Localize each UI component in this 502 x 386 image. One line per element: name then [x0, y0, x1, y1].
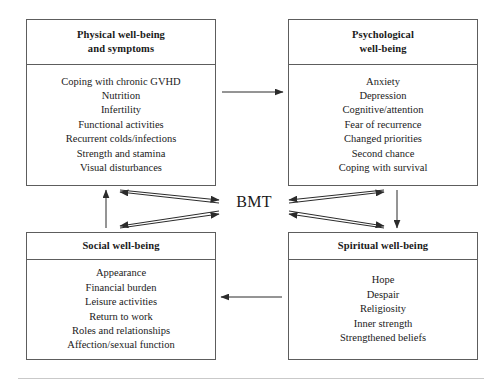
arrow-bmt-to-psychological: [289, 192, 384, 203]
list-item: Visual disturbances: [80, 161, 162, 175]
list-item: Nutrition: [102, 89, 141, 103]
box-psychological-wellbeing: Psychological well-being Anxiety Depress…: [288, 19, 478, 186]
list-item: Return to work: [89, 310, 153, 324]
arrow-psychological-to-bmt: [289, 190, 384, 200]
box-psychological-title-line1: Psychological: [352, 28, 414, 42]
list-item: Religiosity: [360, 302, 406, 316]
list-item: Infertility: [101, 103, 141, 117]
box-physical-items: Coping with chronic GVHD Nutrition Infer…: [27, 65, 215, 185]
list-item: Recurrent colds/infections: [66, 132, 177, 146]
list-item: Changed priorities: [344, 132, 422, 146]
list-item: Affection/sexual function: [67, 338, 174, 352]
box-social-title-line1: Social well-being: [82, 239, 159, 253]
list-item: Appearance: [96, 266, 146, 280]
list-item: Second chance: [352, 147, 415, 161]
list-item: Roles and relationships: [72, 324, 170, 338]
list-item: Fear of recurrence: [345, 118, 422, 132]
list-item: Depression: [359, 89, 406, 103]
list-item: Strength and stamina: [77, 147, 166, 161]
arrow-physical-to-bmt: [120, 190, 219, 200]
box-physical-header: Physical well-being and symptoms: [27, 20, 215, 65]
box-social-wellbeing: Social well-being Appearance Financial b…: [26, 232, 216, 360]
list-item: Strengthened beliefs: [340, 331, 426, 345]
bottom-divider-rule: [18, 378, 484, 379]
list-item: Coping with chronic GVHD: [61, 75, 180, 89]
box-physical-wellbeing: Physical well-being and symptoms Coping …: [26, 19, 216, 186]
arrow-bmt-to-physical: [120, 192, 219, 203]
box-spiritual-title-line1: Spiritual well-being: [338, 239, 428, 253]
list-item: Inner strength: [354, 317, 413, 331]
box-spiritual-items: Hope Despair Religiosity Inner strength …: [289, 260, 477, 359]
conceptual-diagram: Physical well-being and symptoms Coping …: [0, 0, 502, 386]
list-item: Hope: [372, 273, 395, 287]
list-item: Anxiety: [366, 75, 400, 89]
box-social-items: Appearance Financial burden Leisure acti…: [27, 260, 215, 359]
list-item: Leisure activities: [85, 295, 157, 309]
arrow-bmt-to-social: [120, 211, 219, 226]
list-item: Cognitive/attention: [342, 103, 423, 117]
box-psychological-header: Psychological well-being: [289, 20, 477, 65]
hub-label-bmt: BMT: [226, 192, 282, 212]
list-item: Financial burden: [86, 281, 157, 295]
box-psychological-title-line2: well-being: [359, 42, 406, 56]
box-psychological-items: Anxiety Depression Cognitive/attention F…: [289, 65, 477, 185]
box-spiritual-header: Spiritual well-being: [289, 233, 477, 260]
list-item: Functional activities: [78, 118, 163, 132]
box-social-header: Social well-being: [27, 233, 215, 260]
arrow-spiritual-to-bmt: [289, 214, 384, 228]
box-spiritual-wellbeing: Spiritual well-being Hope Despair Religi…: [288, 232, 478, 360]
list-item: Coping with survival: [339, 161, 428, 175]
box-physical-title-line1: Physical well-being: [77, 28, 165, 42]
box-physical-title-line2: and symptoms: [88, 42, 154, 56]
arrow-bmt-to-spiritual: [289, 211, 384, 226]
arrow-social-to-bmt: [120, 214, 219, 228]
list-item: Despair: [367, 288, 400, 302]
